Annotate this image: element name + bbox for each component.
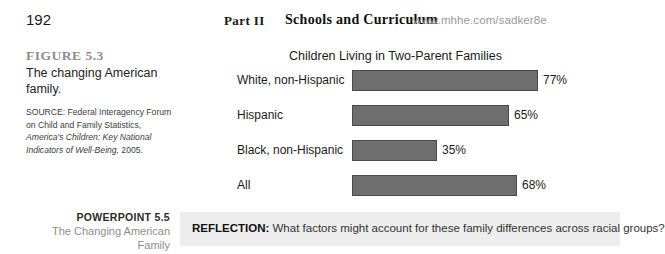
bar-fill [352,140,437,161]
part-label: Part II [224,13,265,29]
source-prefix: SOURCE: Federal Interagency Forum on Chi… [26,107,171,130]
bar-row: White, non-Hispanic77% [230,70,630,92]
bar-category-label: White, non-Hispanic [237,73,344,87]
web-url: www.mhhe.com/sadker8e [413,14,547,26]
bar-row: Black, non-Hispanic35% [230,140,630,162]
reflection-text: REFLECTION: What factors might account f… [192,222,665,234]
bar-category-label: All [237,178,250,192]
bar-fill [352,175,517,196]
bar-track [352,175,517,196]
figure-source-note: SOURCE: Federal Interagency Forum on Chi… [26,106,176,156]
bar-value-label: 77% [543,73,567,87]
reflection-question: What factors might account for these fam… [269,222,664,234]
bar-row: Hispanic65% [230,105,630,127]
bar-fill [352,105,509,126]
reflection-label: REFLECTION: [192,222,269,234]
chart-title: Children Living in Two-Parent Families [289,49,502,63]
powerpoint-title-line1: The Changing American [26,224,170,238]
bar-category-label: Hispanic [237,108,283,122]
bar-fill [352,70,538,91]
bar-value-label: 35% [442,143,466,157]
bar-category-label: Black, non-Hispanic [237,143,343,157]
bar-value-label: 65% [514,108,538,122]
figure-caption: FIGURE 5.3 The changing American family.… [26,48,176,156]
bar-track [352,140,437,161]
powerpoint-note: POWERPOINT 5.5 The Changing American Fam… [26,210,170,252]
powerpoint-title: The Changing American Family [26,224,170,252]
page-number: 192 [26,11,51,28]
page-header: 192 Part II Schools and Curriculum www.m… [0,0,637,34]
bar-chart: Children Living in Two-Parent Families W… [230,44,630,204]
bar-row: All68% [230,175,630,197]
figure-title: The changing American family. [26,66,176,97]
reflection-box: REFLECTION: What factors might account f… [180,212,620,246]
bar-track [352,70,538,91]
bar-track [352,105,509,126]
powerpoint-number: POWERPOINT 5.5 [26,210,170,224]
bar-value-label: 68% [522,178,546,192]
powerpoint-title-line2: Family [26,238,170,252]
figure-number: FIGURE 5.3 [26,48,176,63]
source-suffix: 2005. [119,145,143,155]
